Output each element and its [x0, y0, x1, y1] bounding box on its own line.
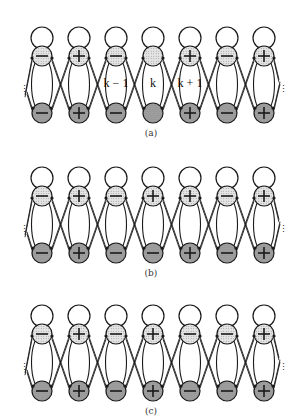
cell — [252, 305, 275, 401]
row-c: ⋮⋮ — [20, 305, 288, 401]
crossing-link — [200, 337, 217, 388]
continuation-mark-left: ⋮ — [20, 362, 29, 372]
crossing-link — [52, 199, 69, 250]
crossing-link — [163, 337, 180, 388]
cell-label: k − 1 — [101, 76, 131, 91]
cell — [178, 305, 201, 401]
cell — [30, 27, 53, 123]
cell — [141, 27, 164, 123]
cell-label: k + 1 — [175, 76, 205, 91]
cell — [30, 305, 53, 401]
continuation-mark-right: ⋮ — [279, 84, 288, 94]
cell — [215, 27, 238, 123]
crossing-link — [126, 199, 143, 250]
cell — [30, 167, 53, 263]
cell — [104, 305, 127, 401]
continuation-mark-left: ⋮ — [20, 84, 29, 94]
top-charge-circle — [143, 46, 163, 66]
cell — [252, 27, 275, 123]
crossing-link — [126, 337, 143, 388]
row-caption: (a) — [136, 128, 166, 138]
crossing-link — [237, 59, 254, 110]
crossing-link — [89, 199, 106, 250]
cell — [67, 27, 90, 123]
crossing-link — [200, 199, 217, 250]
cell — [104, 27, 127, 123]
continuation-mark-right: ⋮ — [279, 224, 288, 234]
cell — [67, 305, 90, 401]
crossing-link — [237, 199, 254, 250]
cell — [252, 167, 275, 263]
cell — [141, 305, 164, 401]
crossing-link — [163, 199, 180, 250]
bottom-charge-circle — [143, 103, 163, 123]
cell — [215, 167, 238, 263]
cell — [178, 167, 201, 263]
crossing-link — [52, 59, 69, 110]
cell — [141, 167, 164, 263]
row-caption: (c) — [136, 406, 166, 416]
row-a: ⋮⋮ — [20, 27, 288, 123]
cell — [178, 27, 201, 123]
crossing-link — [89, 337, 106, 388]
continuation-mark-right: ⋮ — [279, 362, 288, 372]
crossing-link — [237, 337, 254, 388]
row-caption: (b) — [136, 268, 166, 278]
crossing-link — [52, 337, 69, 388]
cell-label: k — [138, 76, 168, 91]
cell — [67, 167, 90, 263]
row-b: ⋮⋮ — [20, 167, 288, 263]
chain-diagram: ⋮⋮⋮⋮⋮⋮ — [0, 0, 302, 417]
cell — [215, 305, 238, 401]
continuation-mark-left: ⋮ — [20, 224, 29, 234]
cell — [104, 167, 127, 263]
